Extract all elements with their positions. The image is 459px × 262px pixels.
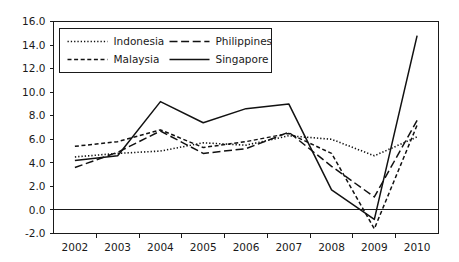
x-tick-label: 2008 xyxy=(318,241,345,253)
legend-label-singapore: Singapore xyxy=(216,53,269,65)
y-tick-label: 6.0 xyxy=(29,133,46,145)
x-tick-label: 2006 xyxy=(233,241,260,253)
y-axis-ticks: 16.014.012.010.08.06.04.02.00.0-2.0 xyxy=(22,15,53,239)
x-tick-label: 2004 xyxy=(147,241,174,253)
chart-legend: IndonesiaPhilippinesMalaysiaSingapore xyxy=(60,29,273,73)
y-tick-label: 0.0 xyxy=(29,204,46,216)
x-tick-label: 2003 xyxy=(104,241,131,253)
line-chart: 16.014.012.010.08.06.04.02.00.0-2.0 2002… xyxy=(0,0,459,262)
x-tick-label: 2010 xyxy=(404,241,431,253)
y-tick-label: 2.0 xyxy=(29,180,46,192)
legend-label-philippines: Philippines xyxy=(216,35,273,47)
y-tick-label: 14.0 xyxy=(22,39,45,51)
y-tick-label: 10.0 xyxy=(22,86,45,98)
series-line-indonesia xyxy=(75,136,417,157)
y-tick-label: 8.0 xyxy=(29,109,46,121)
x-tick-label: 2007 xyxy=(275,241,302,253)
legend-label-malaysia: Malaysia xyxy=(114,53,160,65)
legend-label-indonesia: Indonesia xyxy=(114,35,165,47)
y-tick-label: 4.0 xyxy=(29,157,46,169)
y-tick-label: 12.0 xyxy=(22,62,45,74)
x-tick-label: 2002 xyxy=(62,241,89,253)
y-tick-label: -2.0 xyxy=(25,227,46,239)
series-line-philippines xyxy=(75,120,417,197)
x-tick-label: 2005 xyxy=(190,241,217,253)
x-axis-ticks: 200220032004200520062007200820092010 xyxy=(62,234,431,253)
x-tick-label: 2009 xyxy=(361,241,388,253)
chart-canvas: 16.014.012.010.08.06.04.02.00.0-2.0 2002… xyxy=(0,0,459,262)
y-tick-label: 16.0 xyxy=(22,15,45,27)
